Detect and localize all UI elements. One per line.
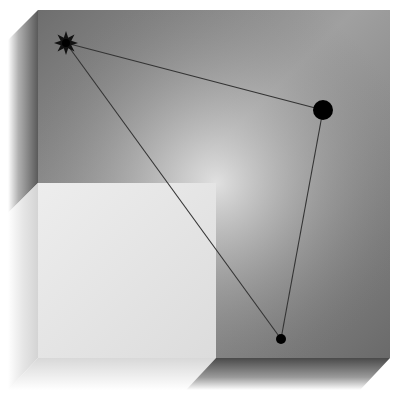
left-bevel-light	[8, 183, 38, 390]
diagram-canvas	[0, 0, 402, 400]
bottom-bevel-dark	[186, 358, 390, 390]
left-bevel-dark	[8, 10, 38, 213]
star-icon	[54, 31, 78, 55]
small-dot-marker	[276, 334, 286, 344]
bottom-bevel-light	[8, 358, 216, 390]
large-dot-marker	[313, 100, 333, 120]
light-square	[38, 183, 216, 358]
